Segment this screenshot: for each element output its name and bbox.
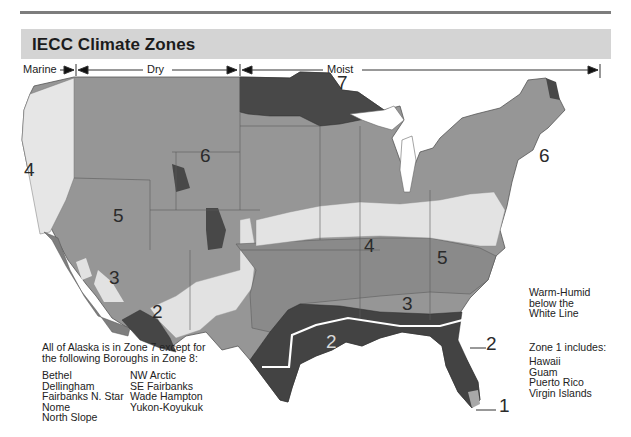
warm-humid-line3: White Line	[529, 308, 590, 319]
zone-label-3-west: 3	[109, 272, 120, 283]
alaska-note-line2: the following Boroughs in Zone 8:	[42, 353, 205, 364]
warm-humid-note: Warm-Humid below the White Line	[529, 287, 590, 319]
zone1-item: Hawaii	[529, 356, 606, 367]
borough-item: North Slope	[42, 412, 124, 423]
zone-label-2-west: 2	[152, 306, 163, 317]
borough-item: NW Arctic	[130, 370, 203, 381]
zone-label-1: 1	[499, 400, 510, 411]
zone-label-2-gulf: 2	[326, 336, 337, 347]
zone1-note-heading: Zone 1 includes:	[529, 342, 606, 353]
borough-list-col2: NW Arctic SE Fairbanks Wade Hampton Yuko…	[130, 370, 203, 412]
top-divider	[20, 11, 611, 14]
zone-label-5-east: 5	[437, 252, 448, 263]
borough-item: Bethel	[42, 370, 124, 381]
borough-item: Yukon-Koyukuk	[130, 402, 203, 413]
zone1-item: Virgin Islands	[529, 388, 606, 399]
alaska-note: All of Alaska is in Zone 7 except for th…	[42, 342, 205, 364]
zone-label-7: 7	[337, 77, 348, 88]
page-title: IECC Climate Zones	[32, 35, 195, 55]
zone1-list: Hawaii Guam Puerto Rico Virgin Islands	[529, 356, 606, 398]
borough-list-col1: Bethel Dellingham Fairbanks N. Star Nome…	[42, 370, 124, 423]
zone-label-3-east: 3	[402, 298, 413, 309]
title-bar: IECC Climate Zones	[21, 29, 611, 59]
zone-label-6-east: 6	[539, 150, 550, 161]
zone-label-2-florida: 2	[486, 338, 497, 349]
zone-label-6-west: 6	[200, 150, 211, 161]
warm-humid-line1: Warm-Humid	[529, 287, 590, 298]
zone-label-5-west: 5	[113, 210, 124, 221]
zone1-note: Zone 1 includes: Hawaii Guam Puerto Rico…	[529, 342, 606, 398]
zone-label-4-east: 4	[364, 240, 375, 251]
zone-label-4-marine: 4	[24, 164, 35, 175]
